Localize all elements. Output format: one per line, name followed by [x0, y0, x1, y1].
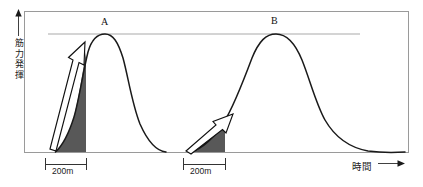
measure-label-200m-b: 200m: [190, 166, 211, 176]
y-axis-arrow: [15, 9, 21, 36]
x-axis-label: 時間: [352, 159, 372, 173]
measure-label-200m-a: 200m: [52, 166, 73, 176]
y-axis-label: 筋 力 発 揮: [10, 38, 28, 80]
x-axis-arrow: [378, 160, 405, 166]
peak-label-a: A: [101, 16, 108, 27]
figure-canvas: 筋 力 発 揮 A B 200m 200m 時間: [0, 0, 423, 187]
peak-label-b: B: [271, 15, 278, 26]
